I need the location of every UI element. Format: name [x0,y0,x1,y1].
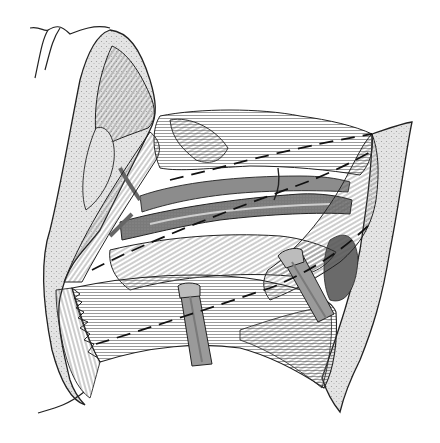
illustration-svg [0,0,440,443]
skin-outline-top-left [30,27,110,34]
skin-outline-hanging [35,28,60,78]
anatomical-illustration [0,0,440,443]
